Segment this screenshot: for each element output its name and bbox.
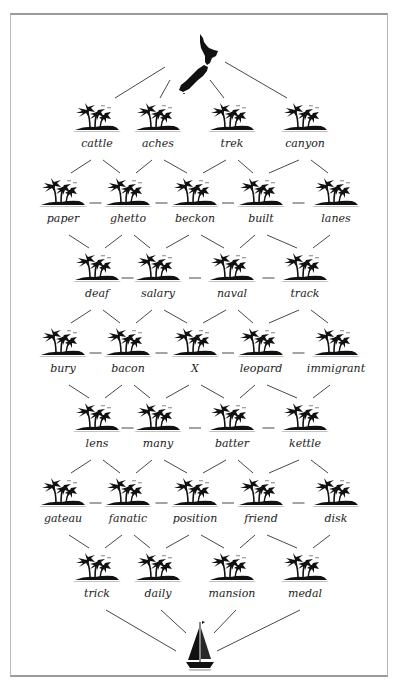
connector-line [240,235,255,248]
island-node: friend [231,475,291,529]
palm-island-icon [104,175,152,209]
island-node: lanes [306,175,366,229]
word-label: canyon [255,137,355,150]
word-label: medal [255,587,355,600]
island-node: daily [128,550,188,604]
connector-line [166,385,189,398]
connector-line [313,235,330,248]
connector-line [267,535,297,548]
palm-island-icon [312,175,360,209]
connector-line [269,160,299,173]
connector-line [164,160,187,173]
island-node: medal [275,550,335,604]
connector-line [103,310,120,323]
island-node: many [128,400,188,454]
word-label: kettle [255,437,355,450]
connector-line [203,160,226,173]
island-node: mansion [202,550,262,604]
island-node: immigrant [306,325,366,379]
connector-line [136,460,152,473]
connector-line [217,610,300,651]
palm-island-icon [237,175,285,209]
connector-line [105,535,122,548]
connector-line [267,385,297,398]
palm-island-icon [208,400,256,434]
palm-island-icon [73,550,121,584]
connector-line [69,535,89,548]
island-node: kettle [275,400,335,454]
island-node: leopard [231,325,291,379]
island-node: aches [128,100,188,154]
connector-line [267,235,297,248]
palm-island-icon [104,325,152,359]
palm-island-icon [171,175,219,209]
island-node: trek [202,100,262,154]
palm-island-icon [134,400,182,434]
connector-line [69,235,89,248]
palm-island-icon [39,325,87,359]
island-node: canyon [275,100,335,154]
palm-island-icon [237,475,285,509]
palm-island-icon [171,475,219,509]
connector-line [225,62,287,98]
palm-island-icon [73,100,121,134]
island-node: batter [202,400,262,454]
connector-line [313,535,330,548]
connector-line [240,535,255,548]
connector-line [134,385,150,398]
connector-line [161,610,186,633]
connector-line [238,460,253,473]
word-label: track [255,287,355,300]
word-label: lanes [286,212,386,225]
palm-island-icon [39,475,87,509]
connector-line [201,235,224,248]
palm-island-icon [312,475,360,509]
palm-island-icon [208,250,256,284]
connector-line [164,460,187,473]
palm-island-icon [134,250,182,284]
connector-line [203,310,226,323]
connector-line [203,460,226,473]
connector-line [166,535,189,548]
connector-line [160,80,170,98]
connector-line [214,610,236,633]
connector-line [201,385,224,398]
palm-island-icon [208,550,256,584]
connector-line [240,385,255,398]
word-label: disk [286,512,386,525]
palm-island-icon [281,250,329,284]
connector-line [238,310,253,323]
palm-island-icon [73,250,121,284]
island-node: salary [128,250,188,304]
connector-line [136,160,152,173]
connector-line [311,460,328,473]
island-node: naval [202,250,262,304]
connector-line [166,235,189,248]
connector-line [238,160,253,173]
island-node: track [275,250,335,304]
island-node: disk [306,475,366,529]
island-node: built [231,175,291,229]
connector-line [269,310,299,323]
connector-line [71,460,91,473]
sailboat-icon [184,620,216,672]
connector-line [134,235,150,248]
palm-island-icon [39,175,87,209]
word-label: immigrant [286,362,386,375]
connector-line [69,385,89,398]
palm-island-icon [73,400,121,434]
connector-line [134,535,150,548]
palm-island-icon [281,550,329,584]
palm-island-icon [134,100,182,134]
connector-line [71,310,91,323]
palm-island-icon [208,100,256,134]
connector-line [71,160,91,173]
connector-line [136,310,152,323]
connector-line [106,610,176,651]
connector-line [103,160,120,173]
palm-island-icon [104,475,152,509]
new-zealand-map-icon [176,32,222,94]
connector-line [313,385,330,398]
connector-line [269,460,299,473]
connector-line [115,67,165,98]
